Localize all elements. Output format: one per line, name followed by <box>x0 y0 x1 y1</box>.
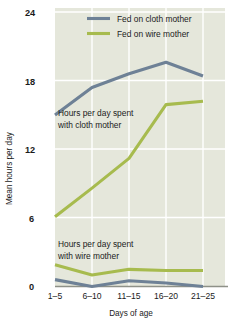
ytick-label-24: 24 <box>25 8 36 18</box>
ytick-label-18: 18 <box>25 77 35 87</box>
y-axis-title: Mean hours per day <box>5 131 14 205</box>
annotation-cloth-line1: Hours per day spent <box>58 108 134 118</box>
x-axis-title: Days of age <box>109 309 153 318</box>
annotation-cloth-line2: with cloth mother <box>57 120 122 130</box>
ytick-label-6: 6 <box>29 214 34 224</box>
ytick-label-0: 0 <box>29 282 34 292</box>
xtick-label-11-15: 11–15 <box>117 291 140 301</box>
xtick-label-16-20: 16–20 <box>154 291 178 301</box>
xtick-label-1-5: 1–5 <box>48 291 63 301</box>
legend-label-cloth: Fed on cloth mother <box>117 14 192 24</box>
harlow-attachment-line-chart: 24 18 12 6 0 Mean hours per day 1–5 6–10… <box>0 0 231 324</box>
xtick-label-21-25: 21–25 <box>191 291 215 301</box>
annotation-wire-line2: with wire mother <box>57 251 119 261</box>
ytick-label-12: 12 <box>25 145 35 155</box>
xtick-label-6-10: 6–10 <box>82 291 101 301</box>
legend-label-wire: Fed on wire mother <box>117 29 189 39</box>
annotation-wire-line1: Hours per day spent <box>58 239 134 249</box>
chart-container: 24 18 12 6 0 Mean hours per day 1–5 6–10… <box>0 0 231 324</box>
